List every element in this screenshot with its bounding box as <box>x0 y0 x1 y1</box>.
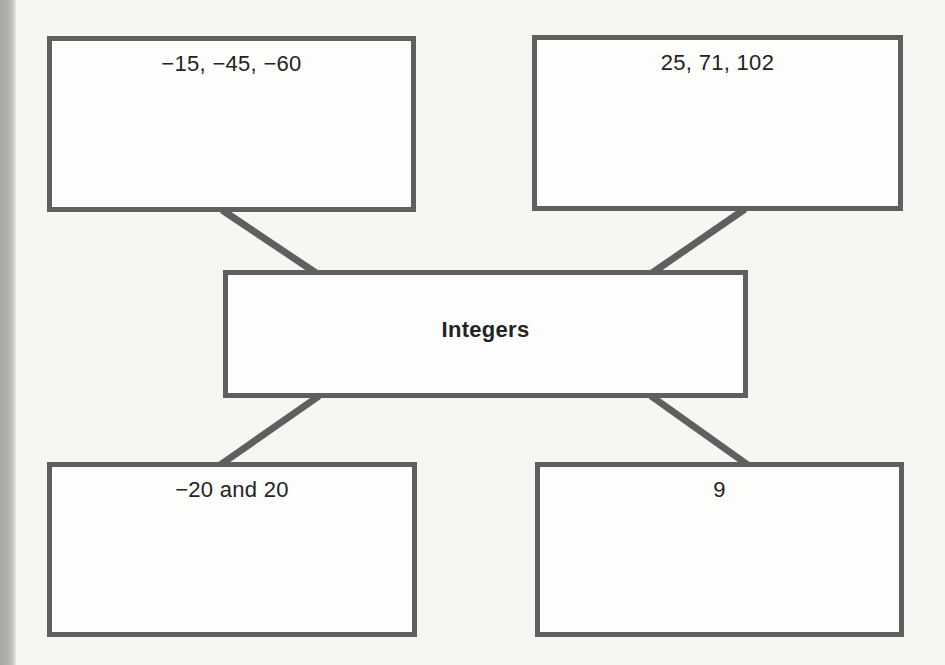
node-top-right: 25, 71, 102 <box>532 35 903 211</box>
center-node-label: Integers <box>228 275 743 343</box>
node-bottom-left-label: −20 and 20 <box>52 467 412 503</box>
node-top-right-label: 25, 71, 102 <box>537 40 898 76</box>
connector-bottom-right <box>651 396 748 465</box>
node-bottom-right: 9 <box>535 462 904 637</box>
node-bottom-left: −20 and 20 <box>47 462 417 637</box>
center-node: Integers <box>223 270 748 398</box>
node-bottom-right-label: 9 <box>540 467 899 503</box>
node-top-left: −15, −45, −60 <box>47 36 416 212</box>
connector-top-right <box>652 209 745 273</box>
connector-bottom-left <box>220 396 319 465</box>
node-top-left-label: −15, −45, −60 <box>52 41 411 77</box>
connector-top-left <box>222 210 316 273</box>
